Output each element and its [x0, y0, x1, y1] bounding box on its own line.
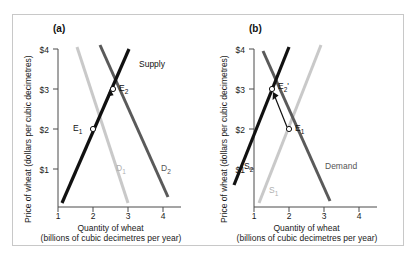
panel-b-equilibrium-marker-2-prime — [269, 86, 274, 91]
figure-container: (a) Price of wheat (dollars per cubic de… — [12, 14, 404, 246]
panel-a-d2-sub: 2 — [167, 168, 171, 175]
panel-b-eq1-sub: 1 — [301, 128, 305, 135]
panel-a-equilibrium-marker-1 — [90, 126, 95, 131]
panel-a-demand-curve-1-label: D1 — [116, 163, 126, 175]
panel-b-equilibrium-point-2-prime-label: E2' — [278, 81, 289, 93]
chart-panel-a: (a) Price of wheat (dollars per cubic de… — [13, 15, 209, 245]
chart-panel-b: (b) Price of wheat (dollars per cubic de… — [209, 15, 405, 245]
panel-a-eq1-sub: 1 — [79, 128, 83, 135]
panel-a-equilibrium-point-1-label: E1 — [73, 123, 82, 135]
panel-a-demand-curve-2-label: D2 — [161, 163, 171, 175]
panel-b-eq2-prime: ' — [287, 81, 289, 91]
panel-b-plot — [209, 15, 405, 245]
panel-b-supply-curve-1-label: S1 — [269, 185, 278, 197]
panel-a-equilibrium-marker-2 — [110, 86, 115, 91]
panel-a-equilibrium-point-2-label: E2 — [119, 83, 128, 95]
panel-b-supply-curve-1 — [259, 45, 321, 203]
panel-b-s1-sub: 1 — [275, 190, 279, 197]
panel-b-equilibrium-point-1-label: E1 — [295, 123, 304, 135]
panel-b-demand-curve-label: Demand — [325, 161, 357, 171]
panel-a-plot — [13, 15, 209, 245]
panel-b-equilibrium-marker-1 — [286, 126, 291, 131]
panel-a-supply-curve-label: Supply — [139, 59, 165, 69]
panel-b-supply-curve-2-label: S2 — [244, 161, 253, 173]
panel-a-eq2-sub: 2 — [125, 88, 129, 95]
panel-b-supply-curve-2 — [234, 47, 289, 185]
panel-b-s2-sub: 2 — [250, 166, 254, 173]
panel-a-d1-sub: 1 — [122, 168, 126, 175]
